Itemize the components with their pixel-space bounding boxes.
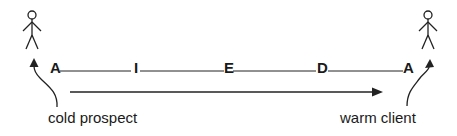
warm-client-caption: warm client <box>340 109 416 126</box>
stage-label-evaluation: E <box>224 59 234 76</box>
stage-label-attention: A <box>50 59 61 76</box>
stage-label-action: A <box>403 59 414 76</box>
right-person-icon <box>419 11 437 49</box>
progress-arrow-icon <box>70 88 383 97</box>
cold-prospect-caption: cold prospect <box>48 109 137 126</box>
left-person-icon <box>23 11 41 49</box>
stage-label-interest: I <box>134 59 138 76</box>
stage-label-decision: D <box>317 59 328 76</box>
